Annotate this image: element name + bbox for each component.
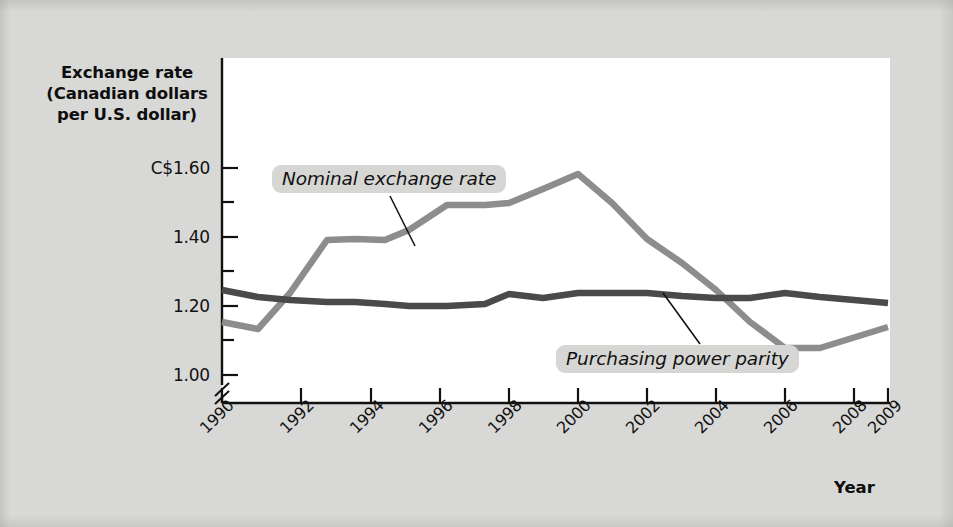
- x-axis-ticks: [222, 388, 888, 403]
- purchasing-power-parity-callout: Purchasing power parity: [556, 345, 799, 373]
- ppp-callout-leader-line: [663, 293, 700, 344]
- chart-svg: [0, 0, 953, 527]
- series-line-purchasing-power-parity: [222, 290, 888, 306]
- series-line-nominal-exchange-rate: [222, 174, 888, 348]
- nominal-exchange-rate-callout: Nominal exchange rate: [272, 165, 506, 193]
- figure-canvas: Exchange rate (Canadian dollars per U.S.…: [0, 0, 953, 527]
